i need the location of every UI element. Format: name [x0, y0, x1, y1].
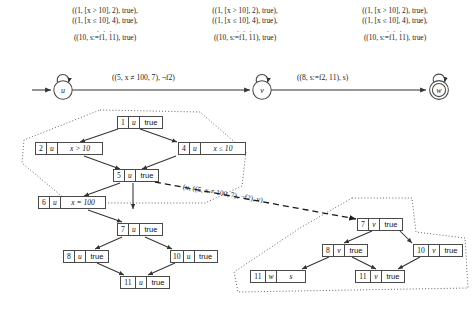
automaton-state-w: w: [430, 74, 449, 99]
node-condition: true: [345, 245, 367, 256]
node-id: 8: [323, 245, 334, 256]
node-id: 11: [356, 271, 371, 282]
node-state: w: [266, 271, 277, 282]
tree-node: 1 u true: [117, 116, 163, 129]
node-id: 7: [358, 219, 369, 230]
node-state: u: [50, 197, 61, 208]
node-id: 2: [36, 143, 47, 154]
svg-text:w: w: [436, 86, 442, 95]
tree-node: 10 u true: [170, 250, 218, 263]
tree-node: 11 w s: [250, 270, 306, 283]
svg-text:v: v: [260, 86, 264, 95]
node-id: 7: [118, 224, 129, 235]
node-id: 10: [171, 251, 184, 262]
node-state: u: [184, 251, 195, 262]
node-id: 11: [251, 271, 266, 282]
node-state: u: [136, 277, 147, 288]
node-state: v: [334, 245, 345, 256]
node-state: u: [47, 143, 58, 154]
node-condition: true: [195, 251, 217, 262]
tree-node: 10 v true: [413, 244, 463, 257]
node-id: 1: [118, 117, 129, 128]
node-condition: true: [440, 245, 462, 256]
node-condition: true: [382, 271, 404, 282]
node-condition: true: [140, 224, 162, 235]
node-state: u: [129, 224, 140, 235]
node-id: 11: [121, 277, 136, 288]
node-condition: x > 10: [58, 143, 102, 154]
tree-node: 8 u true: [63, 250, 109, 263]
tree-node: 6 u x = 100: [38, 196, 106, 209]
node-state: u: [129, 117, 140, 128]
node-id: 6: [39, 197, 50, 208]
node-state: v: [369, 219, 380, 230]
tree-node: 11 v true: [355, 270, 405, 283]
node-condition: true: [140, 117, 162, 128]
tree-node: 8 v true: [322, 244, 368, 257]
figure-canvas: ((1, [x > 10], 2), true), ((1, [x ≤ 10],…: [0, 0, 475, 309]
automaton-state-v: v: [253, 75, 271, 100]
node-state: v: [429, 245, 440, 256]
svg-text:u: u: [61, 86, 65, 95]
node-condition: s: [277, 271, 305, 282]
node-state: u: [75, 251, 86, 262]
tree-node: 4 u x ≤ 10: [178, 142, 246, 155]
node-state: u: [190, 143, 201, 154]
tree-node: 7 u true: [117, 223, 163, 236]
tree-node: 5 u true: [113, 169, 159, 182]
tree-node: 2 u x > 10: [35, 142, 103, 155]
node-condition: true: [147, 277, 169, 288]
node-condition: true: [86, 251, 108, 262]
node-id: 8: [64, 251, 75, 262]
node-state: u: [125, 170, 136, 181]
node-condition: x ≤ 10: [201, 143, 245, 154]
node-condition: x = 100: [61, 197, 105, 208]
node-id: 4: [179, 143, 190, 154]
node-condition: true: [380, 219, 402, 230]
dashed-cross-edge: [155, 182, 356, 219]
node-state: v: [371, 271, 382, 282]
node-id: 5: [114, 170, 125, 181]
tree-node: 11 u true: [120, 276, 170, 289]
tree-node: 7 v true: [357, 218, 403, 231]
node-condition: true: [136, 170, 158, 181]
node-id: 10: [414, 245, 429, 256]
automaton-state-u: u: [54, 75, 72, 100]
